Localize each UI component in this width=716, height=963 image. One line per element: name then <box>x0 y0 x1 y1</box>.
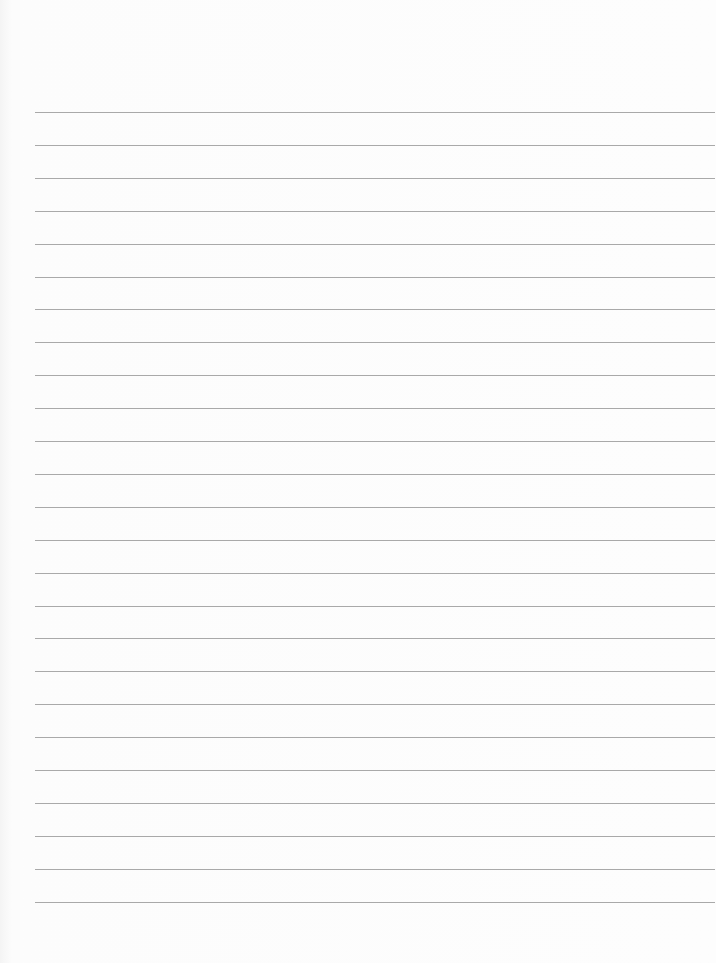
ruled-line <box>35 770 715 771</box>
ruled-line <box>35 573 715 574</box>
ruled-line <box>35 178 715 179</box>
ruled-line <box>35 211 715 212</box>
ruled-line <box>35 704 715 705</box>
ruled-line <box>35 375 715 376</box>
ruled-line <box>35 507 715 508</box>
ruled-line <box>35 342 715 343</box>
ruled-line <box>35 277 715 278</box>
ruled-line <box>35 540 715 541</box>
ruled-line <box>35 869 715 870</box>
ruled-line <box>35 902 715 903</box>
ruled-line <box>35 737 715 738</box>
ruled-line <box>35 309 715 310</box>
ruled-line <box>35 441 715 442</box>
ruled-line <box>35 145 715 146</box>
lined-paper-page <box>0 0 716 963</box>
ruled-line <box>35 671 715 672</box>
ruled-line <box>35 803 715 804</box>
ruled-line <box>35 244 715 245</box>
ruled-line <box>35 638 715 639</box>
ruled-line <box>35 408 715 409</box>
ruled-line <box>35 112 715 113</box>
ruled-line <box>35 606 715 607</box>
ruled-line <box>35 474 715 475</box>
ruled-line <box>35 836 715 837</box>
